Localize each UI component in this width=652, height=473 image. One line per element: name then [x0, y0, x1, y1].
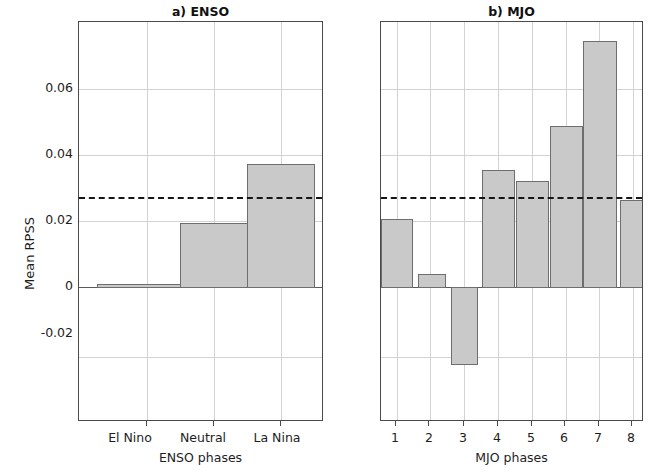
bar-la-nina	[247, 164, 315, 288]
y-tick-label-0: 0	[18, 278, 73, 293]
bar-mjo-phase-7	[583, 41, 617, 288]
gridline--0.02	[79, 357, 322, 358]
bar-mjo-phase-8	[620, 200, 643, 288]
x-tick-mark-phase-1	[395, 421, 396, 426]
plot-area-enso	[78, 21, 323, 421]
x-tick-mark-phase-2	[428, 421, 429, 426]
x-tick-mark-phase-8	[631, 421, 632, 426]
plot-area-mjo	[380, 21, 643, 421]
x-tick-mark-el-nino	[146, 421, 147, 426]
reference-line-mean-rpss-mjo	[381, 197, 642, 199]
reference-line-mean-rpss-enso	[79, 197, 322, 199]
x-tick-mark-phase-7	[598, 421, 599, 426]
figure-enso-mjo-mean-rpss: Mean RPSS a) ENSO 0.06 0.04 0.02 0 -0.02	[0, 0, 652, 473]
x-tick-label-neutral: Neutral	[163, 430, 243, 445]
x-tick-label-phase-8: 8	[611, 430, 651, 445]
gridline-0.04	[79, 155, 322, 156]
x-tick-label-el-nino: El Nino	[90, 430, 170, 445]
y-tick-label-0.06: 0.06	[18, 80, 73, 95]
gridline-vertical-2	[430, 22, 431, 420]
y-tick-label--0.02: -0.02	[10, 325, 73, 340]
x-tick-mark-phase-3	[463, 421, 464, 426]
x-tick-mark-phase-6	[564, 421, 565, 426]
x-tick-mark-phase-5	[531, 421, 532, 426]
bar-mjo-phase-3	[451, 287, 478, 365]
x-tick-mark-neutral	[213, 421, 214, 426]
bar-mjo-phase-4	[482, 170, 515, 288]
bar-mjo-phase-1	[381, 219, 413, 288]
x-axis-title-mjo: MJO phases	[380, 450, 643, 465]
bar-neutral	[180, 223, 248, 288]
bar-mjo-phase-2	[418, 274, 446, 288]
bar-mjo-phase-6	[550, 126, 583, 288]
y-tick-label-0.04: 0.04	[18, 146, 73, 161]
x-tick-mark-la-nina	[280, 421, 281, 426]
x-tick-mark-phase-4	[497, 421, 498, 426]
panel-a-title: a) ENSO	[78, 4, 323, 19]
y-tick-label-0.02: 0.02	[18, 212, 73, 227]
gridline-vertical-1	[147, 22, 148, 420]
gridline-vertical-2	[214, 22, 215, 420]
gridline--0.02	[381, 357, 642, 358]
gridline-0.06	[79, 89, 322, 90]
panel-b-title: b) MJO	[380, 4, 643, 19]
x-axis-title-enso: ENSO phases	[78, 450, 323, 465]
x-tick-label-la-nina: La Nina	[237, 430, 317, 445]
